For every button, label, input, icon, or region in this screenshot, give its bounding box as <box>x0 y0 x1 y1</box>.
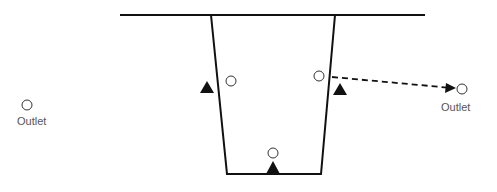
left-outlet-circle <box>22 100 32 110</box>
right-wall-triangle-marker <box>333 83 347 95</box>
left-wall-triangle-marker <box>200 81 214 93</box>
left-outlet-label: Outlet <box>17 115 46 127</box>
bottom-circle-marker <box>268 148 278 158</box>
dashed-flow-arrow <box>332 77 452 88</box>
arrow-head-icon <box>445 83 456 93</box>
bottom-triangle-marker <box>266 161 280 174</box>
channel-diagram <box>0 0 497 192</box>
right-wall-circle-marker <box>314 71 324 81</box>
left-wall-circle-marker <box>226 76 236 86</box>
right-outlet-circle <box>457 84 467 94</box>
right-outlet-label: Outlet <box>441 101 470 113</box>
